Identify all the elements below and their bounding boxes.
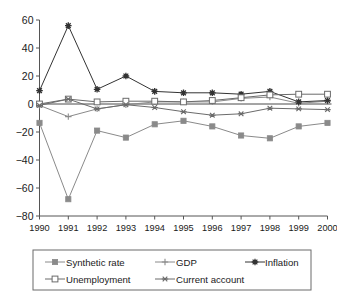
x-tick-label: 1994 (144, 223, 164, 233)
marker-x-star (162, 277, 168, 282)
series-layer (36, 22, 331, 202)
marker-x-star (180, 109, 186, 114)
legend-item-unemployment[interactable]: Unemployment (45, 274, 131, 285)
series-synthetic-rate (37, 118, 330, 202)
marker-open-square (267, 92, 273, 98)
y-tick-label: −60 (16, 182, 34, 194)
x-tick-label: 1997 (231, 223, 251, 233)
marker-open-square (296, 91, 302, 97)
legend-item-label: GDP (176, 257, 197, 268)
y-axis: −80−60−40−200204060 (16, 14, 40, 222)
marker-filled-square (123, 135, 128, 140)
marker-star-core (124, 75, 127, 78)
marker-plus (65, 113, 71, 119)
legend-item-label: Inflation (265, 257, 299, 268)
marker-open-square (152, 98, 158, 104)
y-tick-label: −40 (16, 154, 34, 166)
x-tick-label: 1996 (202, 223, 222, 233)
marker-open-square (94, 99, 100, 105)
marker-filled-square (52, 259, 57, 264)
marker-star-core (96, 88, 99, 91)
marker-open-square (209, 98, 215, 104)
marker-x-star (238, 111, 244, 116)
series-line (40, 121, 328, 199)
legend-item-gdp[interactable]: GDP (155, 257, 197, 268)
x-tick-label: 1990 (29, 223, 49, 233)
marker-star-core (297, 100, 300, 103)
marker-plus (162, 259, 168, 265)
marker-star-core (67, 24, 70, 27)
legend-item-label: Unemployment (66, 274, 131, 285)
y-tick-label: −20 (16, 126, 34, 138)
marker-star-core (182, 91, 185, 94)
line-chart: −80−60−40−200204060 19901991199219931994… (0, 0, 337, 298)
legend-item-inflation[interactable]: Inflation (245, 257, 299, 268)
marker-open-square (325, 91, 331, 97)
y-tick-label: 0 (28, 98, 34, 110)
x-tick-label: 1999 (288, 223, 308, 233)
marker-x-star (152, 105, 158, 110)
marker-open-square (181, 99, 187, 105)
marker-star-core (254, 261, 257, 264)
x-axis: 1990199119921993199419951996199719981999… (29, 216, 337, 233)
marker-filled-square (210, 124, 215, 129)
marker-filled-square (95, 128, 100, 133)
y-tick-label: 60 (22, 14, 34, 26)
legend-item-label: Current account (176, 274, 245, 285)
marker-filled-square (267, 136, 272, 141)
chart-container: −80−60−40−200204060 19901991199219931994… (0, 0, 337, 298)
marker-filled-square (152, 122, 157, 127)
x-tick-label: 1993 (116, 223, 136, 233)
marker-star-core (211, 91, 214, 94)
y-tick-label: 40 (22, 42, 34, 54)
marker-star-core (38, 89, 41, 92)
marker-star-core (153, 90, 156, 93)
x-tick-label: 1991 (58, 223, 78, 233)
marker-filled-square (296, 124, 301, 129)
marker-filled-square (66, 197, 71, 202)
legend-item-current-account[interactable]: Current account (155, 274, 245, 285)
y-tick-label: −80 (16, 210, 34, 222)
series-inflation (36, 22, 331, 105)
marker-filled-square (37, 120, 42, 125)
y-tick-label: 20 (22, 70, 34, 82)
x-tick-label: 2000 (317, 223, 337, 233)
legend-item-label: Synthetic rate (66, 257, 125, 268)
marker-star-core (326, 99, 329, 102)
marker-filled-square (325, 120, 330, 125)
marker-x-star (296, 107, 302, 112)
marker-x-star (209, 113, 215, 118)
x-tick-label: 1995 (173, 223, 193, 233)
marker-x-star (267, 106, 273, 111)
marker-filled-square (181, 118, 186, 123)
chart-legend: Synthetic rateGDPInflationUnemploymentCu… (33, 250, 311, 290)
marker-open-square (52, 276, 58, 282)
legend-item-synthetic-rate[interactable]: Synthetic rate (45, 257, 125, 268)
x-tick-label: 1992 (87, 223, 107, 233)
marker-filled-square (239, 133, 244, 138)
x-tick-label: 1998 (260, 223, 280, 233)
marker-x-star (324, 107, 330, 112)
marker-open-square (238, 95, 244, 101)
